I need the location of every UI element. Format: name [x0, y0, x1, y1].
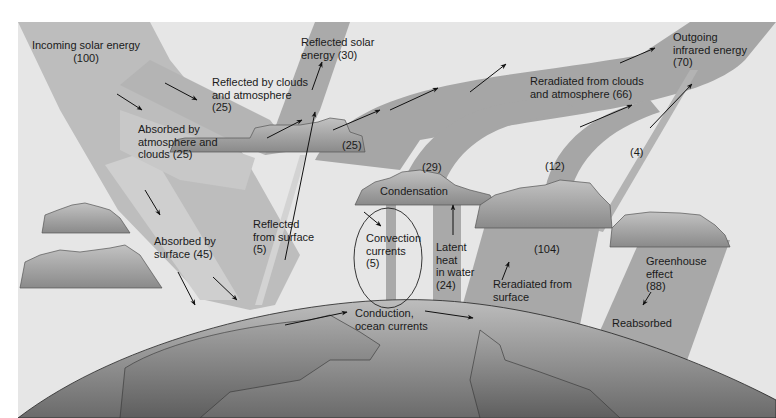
label-reabsorbed: Reabsorbed — [612, 317, 672, 330]
label-condensation: Condensation — [380, 185, 448, 198]
label-incoming-solar: Incoming solar energy (100) — [22, 39, 150, 64]
label-latent-heat: Latent heat in water (24) — [436, 241, 475, 291]
label-conduction: Conduction, ocean currents — [355, 307, 428, 332]
label-flow-4: (4) — [630, 146, 643, 159]
label-flow-12: (12) — [545, 160, 565, 173]
label-outgoing: Outgoing infrared energy (70) — [673, 31, 747, 69]
label-reflected-clouds: Reflected by clouds and atmosphere (25) — [212, 76, 308, 114]
label-greenhouse: Greenhouse effect (88) — [646, 255, 707, 293]
label-surface-104: (104) — [534, 243, 560, 256]
label-convection: Convection currents (5) — [366, 232, 421, 270]
label-flow-25: (25) — [342, 139, 362, 152]
label-absorbed-surface: Absorbed by surface (45) — [154, 235, 216, 260]
label-reflected-surface: Reflected from surface (5) — [253, 218, 314, 256]
label-flow-29: (29) — [422, 161, 442, 174]
label-absorbed-atmosphere: Absorbed by atmosphere and clouds (25) — [138, 123, 218, 161]
label-reradiated-clouds: Reradiated from clouds and atmosphere (6… — [530, 75, 644, 100]
label-reradiated-surface: Reradiated from surface — [493, 278, 572, 303]
label-reflected-solar: Reflected solar energy (30) — [301, 36, 374, 61]
